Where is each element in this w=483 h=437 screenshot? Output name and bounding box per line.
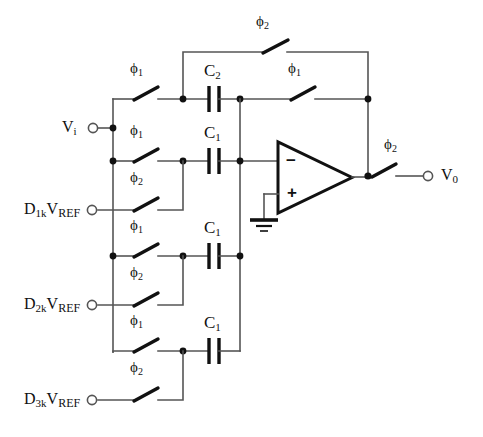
node-vi-c1b — [110, 253, 117, 260]
opamp-group — [250, 142, 372, 231]
node-vi — [110, 125, 117, 132]
terminal-label-d2k: D2kVREF — [24, 296, 80, 314]
capacitor-label-c1-a: C1 — [204, 124, 221, 143]
node-vi-c1a — [110, 158, 117, 165]
node-opamp-output — [364, 172, 371, 179]
wire-c2-left-to-top-rail — [183, 52, 262, 99]
wire-phi2-d3k-to-c1c-left — [158, 351, 183, 400]
phi1-label-vi-c1c: ϕ1 — [130, 313, 143, 330]
wire-phi2-d1k-to-c1a-left — [158, 161, 183, 210]
node-c1b-right-summing — [237, 253, 244, 260]
opamp-inverting-input-label: − — [286, 152, 296, 169]
wire-phi2-d2k-to-c1b-left — [158, 256, 183, 305]
phi1-label-vi-c1a: ϕ1 — [130, 123, 143, 140]
output-branch — [372, 164, 433, 181]
phi1-label-vi-c1b: ϕ1 — [130, 218, 143, 235]
node-right-rail-top — [365, 96, 372, 103]
vi-terminal-group — [88, 123, 116, 132]
phi2-switch-d2k-blade[interactable] — [134, 293, 158, 306]
node-c2-left — [180, 96, 187, 103]
circuit-diagram: .w { stroke:#555555; stroke-width:1.6; f… — [0, 0, 483, 437]
c1c-row — [87, 338, 240, 405]
phi1-switch-vi-c1a-blade[interactable] — [134, 149, 158, 162]
phi2-label-reset: ϕ2 — [256, 14, 269, 31]
phi2-label-output: ϕ2 — [384, 137, 397, 154]
capacitor-label-c1-b: C1 — [204, 219, 221, 238]
terminal-label-d1k: D1kVREF — [24, 201, 80, 219]
node-c1a-right-summing — [237, 158, 244, 165]
vi-terminal-circle[interactable] — [88, 123, 97, 132]
capacitor-label-c1-c: C1 — [204, 314, 221, 333]
phi1-switch-c2-out-blade[interactable] — [291, 87, 315, 100]
capacitor-label-c2: C2 — [204, 62, 221, 81]
c1a-row — [87, 148, 278, 215]
phi2-switch-d3k-blade[interactable] — [134, 388, 158, 401]
wire-vi-to-phi1-c1c — [113, 351, 134, 352]
d1k-terminal-circle[interactable] — [87, 205, 96, 214]
phi1-switch-vi-c2-blade[interactable] — [134, 87, 158, 100]
phi2-label-d3k: ϕ2 — [130, 360, 143, 377]
opamp-noninverting-input-label: + — [287, 184, 297, 201]
terminal-label-d3k: D3kVREF — [24, 391, 80, 409]
c1b-row — [87, 243, 243, 310]
phi2-label-d1k: ϕ2 — [130, 170, 143, 187]
terminal-label-v0: V0 — [441, 167, 458, 185]
phi1-label-vi-c2: ϕ1 — [130, 61, 143, 78]
phi2-reset-switch-blade[interactable] — [263, 40, 288, 53]
phi1-switch-vi-c1b-blade[interactable] — [134, 244, 158, 257]
phi2-output-switch-blade[interactable] — [372, 164, 396, 177]
terminal-label-vi: Vi — [62, 119, 77, 137]
phi1-label-c2-out: ϕ1 — [288, 61, 301, 78]
d3k-terminal-circle[interactable] — [87, 395, 96, 404]
v0-terminal-circle[interactable] — [423, 171, 432, 180]
phi2-label-d2k: ϕ2 — [130, 265, 143, 282]
phi2-switch-d1k-blade[interactable] — [134, 198, 158, 211]
phi1-switch-vi-c1c-blade[interactable] — [134, 339, 158, 352]
d2k-terminal-circle[interactable] — [87, 300, 96, 309]
